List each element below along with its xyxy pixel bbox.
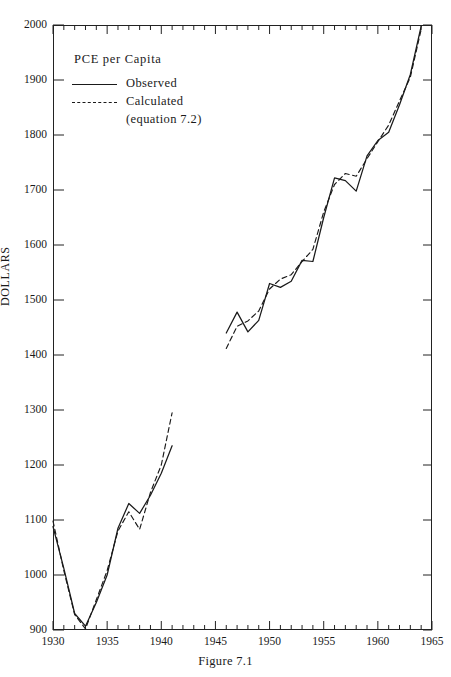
dashed-line-icon [72,97,117,107]
x-tick-label: 1945 [185,635,245,647]
legend: PCE per Capita ObservedCalculated(equati… [72,52,247,127]
series-calculated-segment-1 [226,29,421,348]
solid-line-icon [72,79,117,89]
x-tick-label: 1950 [240,635,300,647]
x-tick-label: 1930 [23,635,83,647]
legend-entry-label: Observed [126,76,177,91]
y-tick-label: 1800 [3,128,47,140]
y-tick-label: 1500 [3,293,47,305]
y-tick-label: 1600 [3,238,47,250]
x-tick-label: 1935 [77,635,137,647]
figure-caption: Figure 7.1 [0,654,451,669]
page-header-remnant [0,0,451,12]
x-tick-label: 1960 [348,635,408,647]
x-tick-label: 1940 [131,635,191,647]
y-tick-label: 900 [3,623,47,635]
x-tick-label: 1965 [402,635,451,647]
y-tick-label: 1400 [3,348,47,360]
legend-entry-sublabel: (equation 7.2) [126,112,247,127]
figure-root: DOLLARS 90010001100120013001400150016001… [0,0,451,677]
x-tick-label: 1955 [294,635,354,647]
legend-entry: Calculated [72,94,247,109]
y-tick-label: 1100 [3,513,47,525]
legend-entry-label: Calculated [126,94,183,109]
y-tick-label: 1900 [3,73,47,85]
y-tick-label: 1200 [3,458,47,470]
legend-entries: ObservedCalculated(equation 7.2) [72,76,247,127]
series-observed-segment-1 [226,26,421,333]
y-tick-label: 1700 [3,183,47,195]
legend-entry: Observed [72,76,247,91]
y-tick-label: 2000 [3,18,47,30]
legend-title: PCE per Capita [74,52,247,67]
y-tick-label: 1300 [3,403,47,415]
y-tick-label: 1000 [3,568,47,580]
